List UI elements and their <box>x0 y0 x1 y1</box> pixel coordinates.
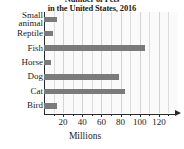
y-label-small-animal-line-2: animal <box>0 19 43 27</box>
bar-reptile <box>44 31 53 36</box>
bar-small-animal <box>44 17 57 22</box>
x-tick-110 <box>149 114 150 116</box>
gridline-120 <box>159 12 160 113</box>
bar-chart: Number of Pets in the United States, 201… <box>0 0 184 149</box>
bar-row <box>44 12 57 26</box>
y-label-cat: Cat <box>0 87 43 96</box>
y-label-fish: Fish <box>0 44 43 53</box>
y-label-small-animal: Small animal <box>0 11 43 27</box>
x-tick-50 <box>92 114 93 116</box>
bar-row <box>44 41 145 55</box>
y-label-horse: Horse <box>0 58 43 67</box>
x-tick-130 <box>168 114 169 116</box>
gridline-110 <box>149 12 150 113</box>
bar-row <box>44 70 119 84</box>
bar-horse <box>44 60 51 65</box>
bar-fish <box>44 45 145 50</box>
x-axis-arrow-icon <box>175 110 181 116</box>
gridline-90 <box>130 12 131 113</box>
x-tick-label-120: 120 <box>147 117 171 127</box>
x-tick-70 <box>111 114 112 116</box>
y-label-reptile: Reptile <box>0 29 43 38</box>
gridline-100 <box>140 12 141 113</box>
x-tick-30 <box>73 114 74 116</box>
bar-dog <box>44 74 119 79</box>
x-tick-90 <box>130 114 131 116</box>
x-tick-10 <box>54 114 55 116</box>
bar-bird <box>44 103 57 108</box>
gridline-130 <box>168 12 169 113</box>
y-label-bird: Bird <box>0 101 43 110</box>
bar-row <box>44 84 125 98</box>
bar-row <box>44 26 53 40</box>
x-axis-label: Millions <box>0 131 170 141</box>
y-label-dog: Dog <box>0 72 43 81</box>
bar-row <box>44 99 57 113</box>
bar-cat <box>44 89 125 94</box>
bar-row <box>44 55 51 69</box>
